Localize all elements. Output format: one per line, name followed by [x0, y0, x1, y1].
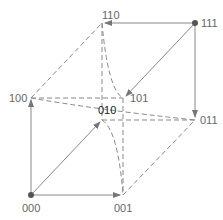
curve-010-001 [102, 120, 123, 195]
hypercube-diagram: 000 001 100 101 010 011 110 111 [0, 0, 223, 220]
label-101: 101 [130, 92, 148, 104]
edge-001-011 [123, 120, 195, 195]
edge-111-101 [126, 23, 195, 96]
label-011: 011 [200, 114, 218, 126]
label-010: 010 [98, 104, 116, 116]
label-000: 000 [22, 202, 40, 214]
label-001: 001 [114, 202, 132, 214]
edge-100-110 [31, 23, 102, 98]
curve-110-101 [102, 23, 123, 98]
label-110: 110 [102, 9, 120, 21]
label-100: 100 [9, 92, 27, 104]
node-000-dot [28, 192, 34, 198]
edge-000-010 [31, 122, 100, 195]
label-111: 111 [201, 17, 218, 29]
node-111-dot [192, 20, 198, 26]
